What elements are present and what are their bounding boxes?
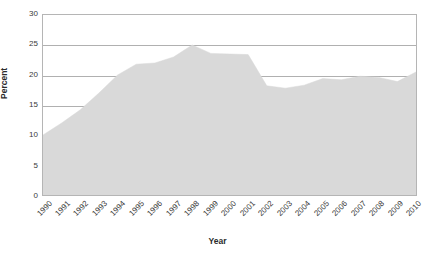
y-tick-label: 0 — [12, 192, 38, 200]
area-chart: Percent 30 25 20 15 10 5 0 1990 1991 199… — [0, 0, 435, 255]
x-tick-label: 2008 — [367, 199, 386, 218]
x-axis-title: Year — [0, 236, 435, 246]
x-tick-label: 1992 — [71, 199, 90, 218]
x-tick-label: 2007 — [349, 199, 368, 218]
series-area — [43, 15, 416, 195]
y-tick-label: 20 — [12, 71, 38, 79]
y-tick-label: 5 — [12, 162, 38, 170]
x-tick-label: 1991 — [53, 199, 72, 218]
x-tick-label: 1998 — [182, 199, 201, 218]
x-tick-label: 1993 — [90, 199, 109, 218]
x-tick-label: 1996 — [145, 199, 164, 218]
x-tick-label: 1995 — [127, 199, 146, 218]
x-tick-label: 2009 — [386, 199, 405, 218]
x-tick-label: 1999 — [201, 199, 220, 218]
x-tick-label: 2006 — [330, 199, 349, 218]
x-tick-label: 2010 — [404, 199, 423, 218]
y-tick-label: 30 — [12, 10, 38, 18]
x-tick-label: 1997 — [164, 199, 183, 218]
x-tick-label: 2001 — [238, 199, 257, 218]
x-tick-label: 1994 — [108, 199, 127, 218]
x-tick-label: 2005 — [312, 199, 331, 218]
y-tick-label: 15 — [12, 101, 38, 109]
x-tick-label: 2000 — [219, 199, 238, 218]
y-tick-label: 10 — [12, 131, 38, 139]
plot-area — [42, 14, 417, 196]
x-tick-label: 2004 — [293, 199, 312, 218]
x-tick-label: 2002 — [256, 199, 275, 218]
x-axis-tick-labels: 1990 1991 1992 1993 1994 1995 1996 1997 … — [42, 199, 417, 239]
y-axis-tick-labels: 30 25 20 15 10 5 0 — [8, 0, 38, 255]
y-tick-label: 25 — [12, 40, 38, 48]
x-tick-label: 2003 — [275, 199, 294, 218]
x-tick-label: 1990 — [35, 199, 54, 218]
